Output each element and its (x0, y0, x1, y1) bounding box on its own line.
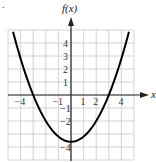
x-axis-label: x (150, 88, 156, 100)
x-tick-label: 4 (118, 96, 123, 107)
y-tick-label: −1 (60, 103, 71, 114)
y-axis-label: f(x) (62, 2, 78, 15)
x-axis-arrow-icon (140, 92, 149, 98)
y-axis-arrow-icon (68, 17, 74, 26)
parabola-chart: −4−11244321−1−2−4 f(x) x . (0, 0, 156, 162)
x-tick-label: −4 (15, 96, 26, 107)
y-tick-label: −2 (60, 116, 71, 127)
y-tick-label: 2 (63, 64, 68, 75)
corner-mark: . (2, 0, 5, 10)
x-tick-label: 1 (81, 96, 86, 107)
x-tick-label: 2 (93, 96, 98, 107)
y-tick-label: −4 (60, 142, 71, 153)
y-tick-label: 3 (63, 51, 68, 62)
y-tick-label: 4 (63, 38, 68, 49)
y-tick-label: 1 (63, 77, 68, 88)
